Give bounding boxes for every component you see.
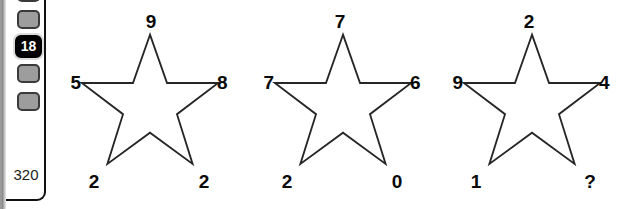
star-1-label-top: 9 [53, 12, 249, 31]
star-1-label-bottom-right: 2 [191, 172, 217, 191]
star-3-label-missing-value: ? [577, 172, 603, 191]
star-3-label-right: 4 [599, 73, 625, 92]
sidebar-item-2[interactable] [17, 10, 40, 29]
sidebar-footer-value: 320 [6, 166, 46, 183]
star-shape-1 [79, 30, 221, 170]
sidebar-item-5[interactable] [17, 92, 40, 111]
sidebar-panel: 18 320 [6, 0, 46, 201]
star-1-label-right: 8 [217, 73, 243, 92]
star-shape-3 [461, 30, 603, 170]
star-1-label-left: 5 [55, 73, 81, 92]
star-3-label-top: 2 [431, 12, 627, 31]
star-3-label-left: 9 [437, 73, 463, 92]
sidebar-item-active-18[interactable]: 18 [15, 35, 42, 58]
star-group-3: 2 9 4 1 ? [433, 0, 629, 209]
star-3-label-bottom-left: 1 [463, 172, 489, 191]
star-group-1: 9 5 8 2 2 [51, 0, 247, 209]
left-sidebar: 18 320 [0, 0, 48, 209]
sidebar-item-4[interactable] [17, 64, 40, 83]
star-2-label-left: 7 [248, 73, 274, 92]
puzzle-screenshot: 18 320 9 5 8 2 2 7 7 6 [0, 0, 641, 209]
sidebar-edge-line [0, 0, 2, 209]
star-group-2: 7 7 6 2 0 [244, 0, 440, 209]
star-2-label-bottom-left: 2 [274, 172, 300, 191]
sidebar-item-1[interactable] [17, 0, 40, 2]
star-2-label-bottom-right: 0 [384, 172, 410, 191]
stars-area: 9 5 8 2 2 7 7 6 2 0 2 9 4 1 ? [48, 0, 641, 209]
star-2-label-top: 7 [242, 12, 438, 31]
sidebar-panel-inner: 18 320 [6, 0, 44, 199]
star-shape-2 [272, 30, 414, 170]
star-1-label-bottom-left: 2 [81, 172, 107, 191]
